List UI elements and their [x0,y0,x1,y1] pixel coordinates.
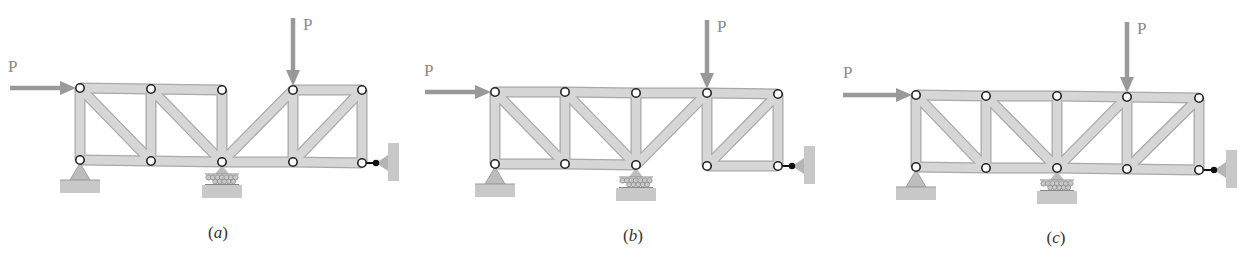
pin-joint-icon [1123,165,1131,173]
roller-support-icon [202,165,242,198]
pin-joint-icon [912,163,920,171]
link-support-icon [1203,150,1237,188]
vertical-load-arrow-icon [700,20,714,89]
vertical-load-arrow-icon [286,18,300,86]
horizontal-load-arrow-icon [843,88,912,102]
truss-member [1127,97,1199,98]
ground-block [202,185,242,198]
truss-member [495,92,565,164]
pin-support-icon [60,163,100,193]
wall-block [804,146,815,184]
truss-member [293,90,362,162]
vertical-load-arrow-icon [1120,22,1134,93]
truss-member [916,95,986,96]
pin-support-icon [475,167,515,197]
caption-letter: b [629,226,638,245]
caption-a: (a) [208,223,228,243]
truss-member [565,164,636,165]
vertical-load-label: P [303,15,312,34]
truss-member [151,89,222,162]
ground-block [616,188,656,201]
pin-joint-icon [982,92,990,100]
pin-joint-icon [289,86,297,94]
pin-joint-icon [703,162,711,170]
pin-joint-icon [76,84,84,92]
horizontal-load-label: P [424,61,433,80]
horizontal-load-label: P [843,63,852,82]
caption-letter: a [214,223,223,242]
ground-block [1037,191,1077,204]
pin-joint-icon [491,160,499,168]
pin-joint-icon [1053,92,1061,100]
truss-member [986,96,1057,168]
truss-member [1127,98,1199,169]
ground-block [475,184,515,197]
ground-block [60,180,100,193]
link-support-icon [366,143,399,181]
truss-member [80,160,151,161]
vertical-load-label: P [717,17,726,36]
truss-member [916,95,986,168]
pin-joint-icon [703,89,711,97]
truss-member [222,90,293,162]
pin-joint-icon [358,86,366,94]
truss-panel-c: PP [843,19,1237,204]
truss-member [1057,168,1127,169]
truss-member [1057,96,1127,97]
horizontal-load-arrow-icon [10,81,76,95]
pin-joint-icon [76,156,84,164]
vertical-load-label: P [1137,19,1146,38]
truss-member [707,94,778,166]
pin-joint-icon [358,159,366,167]
pin-joint-icon [982,164,990,172]
truss-member [636,93,707,165]
caption-b: (b) [623,226,643,246]
pin-joint-icon [289,158,297,166]
pin-joint-icon [147,157,155,165]
truss-member [1057,97,1127,168]
truss-member [151,161,222,162]
caption-c: (c) [1047,228,1066,248]
pin-joint-icon [561,88,569,96]
pin-joint-icon [218,158,226,166]
pin-joint-icon [1123,93,1131,101]
truss-member [151,89,222,90]
truss-figure: PPPPPP [0,0,1245,257]
wall-block [1226,150,1237,188]
pin-joint-icon [147,85,155,93]
truss-members [916,95,1199,170]
truss-member [565,92,636,165]
pin-joint-icon [1195,166,1203,174]
horizontal-load-label: P [8,57,17,76]
wall-block [388,143,399,181]
truss-member [707,93,778,94]
roller-support-icon [616,168,656,201]
pin-joint-icon [491,88,499,96]
link-support-icon [782,146,815,184]
truss-member [80,88,151,89]
horizontal-load-arrow-icon [425,85,491,99]
truss-members [80,88,362,163]
truss-member [916,167,986,168]
pin-joint-icon [1053,164,1061,172]
pin-support-icon [896,170,936,200]
truss-members [495,92,778,166]
pin-joint-icon [632,89,640,97]
truss-member [1127,169,1199,170]
pin-joint-icon [218,86,226,94]
pin-joint-icon [912,91,920,99]
pin-joint-icon [774,162,782,170]
pin-joint-icon [561,160,569,168]
pin-joint-icon [1195,94,1203,102]
roller-support-icon [1037,171,1077,204]
truss-member [80,88,151,161]
truss-panel-b: PP [424,17,815,201]
truss-panel-a: PP [8,15,399,198]
ground-block [896,187,936,200]
pin-joint-icon [632,161,640,169]
pin-joint-icon [774,90,782,98]
truss-member [293,162,362,163]
truss-member [565,92,636,93]
caption-letter: c [1052,228,1060,247]
